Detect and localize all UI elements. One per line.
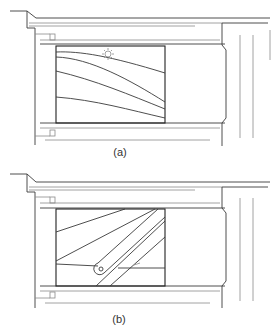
glazing-panel-b: [56, 209, 165, 286]
frame-outline-b: [10, 174, 270, 308]
glazing-panel-a: [56, 46, 165, 123]
caption-a: (a): [100, 146, 140, 158]
figure-a: [0, 0, 274, 170]
frame-outline-a: [10, 11, 270, 146]
pivot-hinge-icon: [94, 263, 104, 275]
figure-b: [0, 165, 274, 333]
caption-b: (b): [99, 313, 139, 325]
